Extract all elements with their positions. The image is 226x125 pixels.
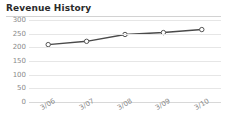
y-axis-tick-label: 300 <box>2 16 26 24</box>
chart-widget: Revenue History 300250200150100500 3/063… <box>0 0 226 125</box>
data-point-marker <box>84 39 88 43</box>
y-axis: 300250200150100500 <box>0 20 26 102</box>
gridline <box>29 34 221 35</box>
gridline <box>29 20 221 21</box>
gridline <box>29 88 221 89</box>
y-axis-tick-label: 0 <box>2 98 26 106</box>
y-axis-tick-label: 50 <box>2 84 26 92</box>
data-point-marker <box>200 27 204 31</box>
gridline <box>29 61 221 62</box>
x-axis: 3/063/073/083/093/10 <box>29 103 221 125</box>
plot-area <box>29 20 221 102</box>
gridline <box>29 75 221 76</box>
y-axis-tick-label: 150 <box>2 57 26 65</box>
y-axis-tick-label: 100 <box>2 71 26 79</box>
title-divider <box>6 16 221 17</box>
y-axis-tick-label: 250 <box>2 30 26 38</box>
y-axis-tick-label: 200 <box>2 43 26 51</box>
data-point-marker <box>46 42 50 46</box>
page-title: Revenue History <box>6 3 91 13</box>
gridline <box>29 47 221 48</box>
